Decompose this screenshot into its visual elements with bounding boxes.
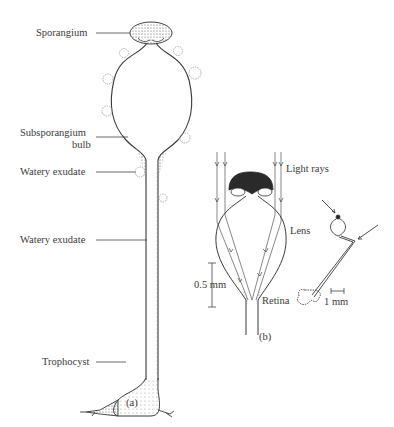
label-watery-exudate-2: Watery exudate — [20, 234, 85, 246]
label-scale-0-5mm: 0.5 mm — [194, 279, 226, 291]
caption-panel-b: (b) — [259, 331, 271, 343]
label-sporangium: Sporangium — [36, 27, 87, 39]
figure-canvas: Sporangium Subsporangium bulb Watery exu… — [0, 0, 394, 427]
label-watery-exudate-1: Watery exudate — [20, 166, 85, 178]
label-subsporangium: Subsporangium — [20, 127, 86, 139]
label-light-rays: Light rays — [286, 163, 329, 175]
panel-b-drawing — [208, 152, 378, 335]
label-lens: Lens — [290, 225, 310, 237]
panel-a-drawing — [80, 22, 201, 417]
label-scale-1mm: 1 mm — [324, 296, 348, 308]
label-trophocyst: Trophocyst — [42, 356, 89, 368]
caption-panel-a: (a) — [126, 397, 138, 409]
label-retina: Retina — [262, 295, 289, 307]
label-subsporangium-bulb: bulb — [72, 139, 91, 151]
